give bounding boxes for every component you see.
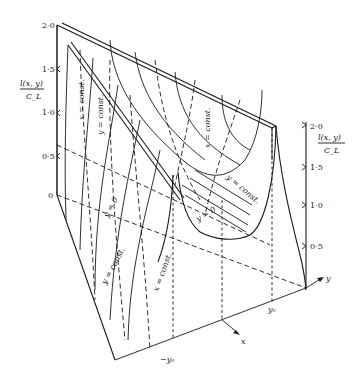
y-axis-label: y	[325, 274, 331, 283]
right-tick-0-5: 0·5	[310, 242, 323, 251]
right-tick-1-5: 1·5	[310, 163, 323, 172]
label-x-const-3: x = const.	[151, 251, 173, 292]
left-tick-0: 0	[48, 191, 53, 200]
label-y-const-2: y = const.	[224, 172, 262, 206]
label-y-const-1: y = const.	[96, 94, 105, 136]
left-vertical-axis: 2·0 1·5 1·0 0·5 0 l(x, y) C_L	[20, 21, 60, 200]
lift-distribution-surface-diagram: 2·0 1·5 1·0 0·5 0 l(x, y) C_L 2·0 1·5 1·…	[0, 0, 359, 391]
right-tick-2-0: 2·0	[310, 122, 323, 131]
right-axis-label-numerator: l(x, y)	[318, 133, 341, 142]
y0-label: y₀	[267, 305, 277, 314]
left-tick-1-5: 1·5	[42, 65, 55, 74]
left-axis-label-denominator: C_L	[26, 92, 41, 101]
neg-y0-label: −y₀	[160, 355, 175, 364]
right-tip-curve	[272, 126, 306, 288]
left-tick-1-0: 1·0	[42, 108, 55, 117]
right-vertical-axis: 2·0 1·5 1·0 0·5 l(x, y) C_L	[302, 122, 345, 290]
label-x-const-1: x = const.	[77, 79, 86, 120]
left-tick-0-5: 0·5	[42, 152, 55, 161]
label-y-zero-1: y = 0	[101, 196, 119, 220]
x-axis-label: x	[241, 337, 246, 346]
top-ridge	[57, 23, 276, 200]
left-tick-2-0: 2·0	[42, 21, 55, 30]
label-x-const-2: x = const.	[203, 107, 212, 148]
base-plane: y x y₀ −y₀	[57, 128, 331, 364]
right-axis-label-denominator: C_L	[324, 146, 339, 155]
right-tick-1-0: 1·0	[310, 201, 323, 210]
label-y-zero-2: y = 0	[194, 205, 218, 224]
left-axis-label-numerator: l(x, y)	[20, 79, 43, 88]
